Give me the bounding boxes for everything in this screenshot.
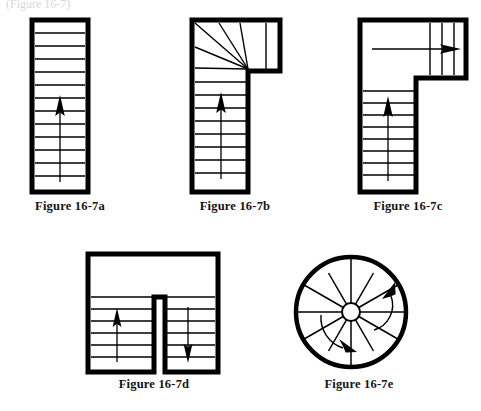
figure-16-7c-diagram	[348, 16, 472, 196]
figure-16-7d-diagram	[84, 250, 222, 376]
figure-16-7a-caption: Figure 16-7a	[14, 199, 126, 214]
figure-16-7d-caption: Figure 16-7d	[93, 377, 215, 392]
stair-outline-c	[360, 20, 466, 192]
stair-outline-b	[192, 20, 280, 192]
figure-16-7b-diagram	[188, 16, 294, 196]
figure-16-7b-caption: Figure 16-7b	[176, 199, 294, 214]
figure-16-7a-diagram	[28, 16, 112, 196]
stair-outline-d	[88, 254, 218, 372]
figure-16-7c-caption: Figure 16-7c	[346, 199, 470, 214]
figure-16-7e-diagram	[291, 252, 417, 374]
spiral-center-pole-e	[342, 303, 360, 321]
figure-plate: (Figure 16-7)	[0, 0, 481, 411]
ghost-header-text: (Figure 16-7)	[6, 0, 70, 12]
figure-16-7e-caption: Figure 16-7e	[300, 377, 418, 392]
